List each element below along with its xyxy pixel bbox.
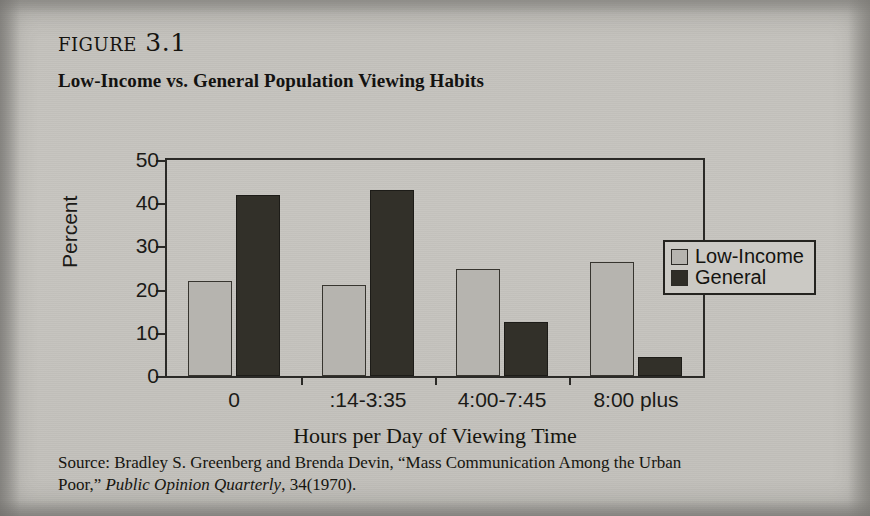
bar-low-income-0 xyxy=(188,281,232,376)
legend-item-label: General xyxy=(695,267,766,288)
x-axis-title: Hours per Day of Viewing Time xyxy=(165,423,705,449)
bar-low-income-1 xyxy=(322,285,366,376)
source-journal: Public Opinion Quarterly xyxy=(105,475,281,494)
x-axis-tick xyxy=(301,376,303,385)
source-note: Source: Bradley S. Greenberg and Brenda … xyxy=(58,452,828,497)
black-square-icon xyxy=(671,270,688,286)
source-line-1: Source: Bradley S. Greenberg and Brenda … xyxy=(58,453,681,472)
legend-item-label: Low-Income xyxy=(695,246,804,267)
x-axis-tick-label: :14-3:35 xyxy=(329,388,406,412)
x-axis-tick xyxy=(569,376,571,385)
x-axis-tick-label: 8:00 plus xyxy=(593,388,678,412)
bar-low-income-2 xyxy=(456,269,500,376)
source-line-2-suffix: , 34(1970). xyxy=(281,475,356,494)
y-axis-tick-label: 30 xyxy=(136,234,159,258)
y-axis-tick-label: 40 xyxy=(136,191,159,215)
x-axis-tick-label: 4:00-7:45 xyxy=(458,388,547,412)
figure-label: figure 3.1 xyxy=(58,28,187,57)
legend-item-low-income[interactable]: Low-Income xyxy=(671,246,804,267)
x-axis-tick-label: 0 xyxy=(228,388,240,412)
y-axis-tick-label: 50 xyxy=(136,148,159,172)
legend-item-general[interactable]: General xyxy=(671,267,804,288)
page-edge-top xyxy=(0,0,870,14)
y-axis-title: Percent xyxy=(58,196,82,268)
figure-subtitle: Low-Income vs. General Population Viewin… xyxy=(58,70,484,92)
x-axis-tick xyxy=(435,376,437,385)
bar-chart: Percent 010203040500:14-3:354:00-7:458:0… xyxy=(0,118,870,438)
bar-general-1 xyxy=(370,190,414,376)
source-line-2-prefix: Poor,” xyxy=(58,475,105,494)
light-gray-square-icon xyxy=(671,249,688,265)
bar-general-2 xyxy=(504,322,548,376)
page-edge-bottom xyxy=(0,500,870,516)
plot-inner: 010203040500:14-3:354:00-7:458:00 plus xyxy=(167,160,703,376)
scanned-page: figure 3.1 Low-Income vs. General Popula… xyxy=(0,0,870,516)
chart-legend: Low-IncomeGeneral xyxy=(663,240,816,295)
y-axis-tick-label: 20 xyxy=(136,278,159,302)
bar-general-0 xyxy=(236,195,280,376)
y-axis-tick-label: 10 xyxy=(136,321,159,345)
plot-area: 010203040500:14-3:354:00-7:458:00 plus xyxy=(165,158,705,378)
bar-low-income-3 xyxy=(590,262,634,376)
bar-general-3 xyxy=(638,357,682,376)
y-axis-tick-label: 0 xyxy=(147,364,159,388)
